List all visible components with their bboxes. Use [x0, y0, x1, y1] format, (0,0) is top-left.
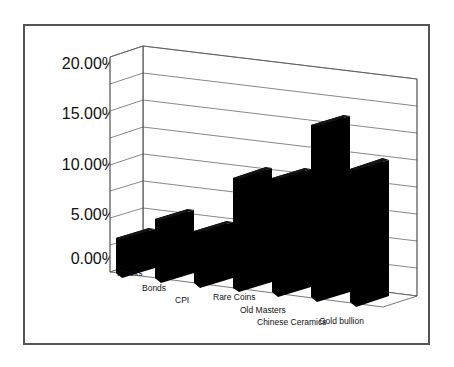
bar-gold-bullion [350, 158, 389, 307]
chart-plot-area [0, 0, 454, 367]
category-label-old-masters: Old Masters [240, 305, 286, 315]
category-label-bonds: Bonds [142, 283, 166, 293]
category-label-stocks: Stocks [117, 268, 143, 278]
bar-cpi [194, 221, 233, 288]
category-label-rare-coins: Rare Coins [213, 292, 256, 302]
bar-chart-3d: 20.00% 15.00% 10.00% 5.00% 0.00% [0, 0, 454, 367]
bar-bonds [155, 209, 194, 283]
category-label-chinese-ceramics: Chinese Ceramics [257, 317, 326, 327]
category-label-gold-bullion: Gold bullion [319, 316, 364, 326]
category-label-cpi: CPI [175, 295, 189, 305]
bar-chinese-ceramics [311, 115, 350, 302]
bar-old-masters [272, 168, 311, 297]
bar-rare-coins [233, 167, 272, 292]
